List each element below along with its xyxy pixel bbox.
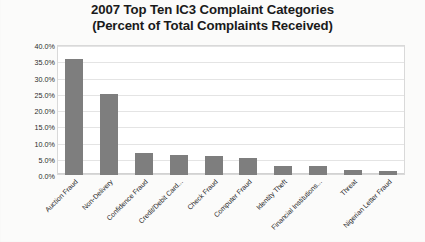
x-axis-category-label: Auction Fraud: [44, 178, 79, 213]
bar-slot: [127, 45, 162, 175]
bar: [309, 166, 327, 175]
chart-title-line-1: 2007 Top Ten IC3 Complaint Categories: [0, 2, 425, 18]
bar-slot: [335, 45, 370, 175]
bar: [135, 153, 153, 175]
bar: [65, 59, 83, 175]
bar-slot: [301, 45, 336, 175]
x-axis-category-label: Threat: [339, 178, 358, 197]
bar: [239, 158, 257, 175]
chart-screenshot: 2007 Top Ten IC3 Complaint Categories (P…: [0, 0, 425, 242]
bar-slot: [196, 45, 231, 175]
y-axis-tick-label: 15.0%: [3, 123, 55, 132]
bar: [344, 170, 362, 175]
bar-slot: [161, 45, 196, 175]
bar-slot: [92, 45, 127, 175]
bar: [274, 166, 292, 175]
bar: [170, 155, 188, 175]
y-axis-tick-label: 5.0%: [3, 155, 55, 164]
y-axis-tick-label: 25.0%: [3, 90, 55, 99]
bar: [100, 94, 118, 175]
x-label-slot: Financial Institutions...: [301, 176, 336, 242]
bar-slot: [57, 45, 92, 175]
bar: [205, 156, 223, 176]
x-axis-labels: Auction FraudNon-DeliveryConfidence Frau…: [57, 176, 405, 242]
y-axis-tick-label: 35.0%: [3, 58, 55, 67]
bar-slot: [266, 45, 301, 175]
y-axis-tick-label: 0.0%: [3, 172, 55, 181]
bar: [379, 171, 397, 175]
bar-series: [57, 45, 405, 175]
y-axis-tick-label: 20.0%: [3, 107, 55, 116]
bar-slot: [370, 45, 405, 175]
y-axis-tick-label: 30.0%: [3, 74, 55, 83]
x-label-slot: Nigerian Letter Fraud: [370, 176, 405, 242]
y-axis-tick-label: 10.0%: [3, 139, 55, 148]
y-axis: 0.0%5.0%10.0%15.0%20.0%25.0%30.0%35.0%40…: [0, 45, 55, 176]
chart-title: 2007 Top Ten IC3 Complaint Categories (P…: [0, 2, 425, 34]
bar-slot: [231, 45, 266, 175]
y-axis-tick-label: 40.0%: [3, 42, 55, 51]
chart-title-line-2: (Percent of Total Complaints Received): [0, 18, 425, 34]
